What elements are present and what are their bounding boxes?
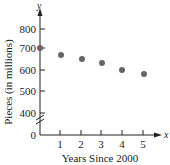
x-tick-2: 2 [78,138,84,150]
y-tick-400: 400 [20,107,37,119]
y-tick-500: 500 [20,85,37,97]
data-point [99,60,105,66]
data-point [141,71,147,77]
x-axis-letter: x [163,129,169,140]
data-point [58,52,64,58]
x-tick-1: 1 [57,138,63,150]
x-tick-4: 4 [119,138,125,150]
y-axis-letter: y [36,0,42,11]
x-axis-title: Years Since 2000 [62,152,139,164]
origin-label: 0 [31,129,37,141]
data-point [119,67,125,73]
x-tick-3: 3 [98,138,104,150]
x-tick-5: 5 [140,138,146,150]
y-axis-title: Pieces (in millions) [2,39,15,125]
x-ticks [60,130,143,135]
scatter-chart: y x 800 700 600 500 400 0 1 2 3 4 5 Year… [0,0,170,165]
data-points [37,45,147,77]
y-tick-600: 600 [20,64,37,76]
y-ticks [40,29,45,113]
data-point [37,45,43,51]
y-tick-700: 700 [20,42,37,54]
data-point [79,56,85,62]
x-axis-arrow-icon [154,133,162,138]
y-tick-800: 800 [20,23,37,35]
